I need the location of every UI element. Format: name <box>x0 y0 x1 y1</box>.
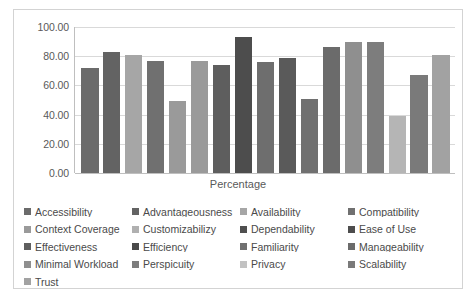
bar-slot <box>430 9 452 173</box>
bar-slot <box>364 9 386 173</box>
bar <box>125 55 142 173</box>
legend-item[interactable]: Manageability <box>348 242 456 253</box>
legend-swatch-icon <box>348 243 355 250</box>
legend-item[interactable]: Ease of Use <box>348 224 456 235</box>
bar <box>103 52 120 173</box>
legend-item[interactable]: Minimal Workload <box>24 259 132 270</box>
bar-slot <box>386 9 408 173</box>
bar <box>213 65 230 173</box>
y-axis: 0.0020.0040.0060.0080.00100.00 <box>13 9 75 185</box>
y-axis-tick-label: 40.00 <box>43 109 69 121</box>
legend-item-label: Availability <box>251 207 300 218</box>
bar-slot <box>408 9 430 173</box>
legend-swatch-icon <box>132 243 139 250</box>
legend-item-label: Effectiveness <box>35 242 97 253</box>
legend-item-label: Efficiency <box>143 242 188 253</box>
legend-swatch-icon <box>24 226 31 233</box>
y-axis-tick-label: 60.00 <box>43 79 69 91</box>
legend-item-label: Compatibility <box>359 207 419 218</box>
legend-swatch-icon <box>240 261 247 268</box>
legend-swatch-icon <box>348 261 355 268</box>
bar-slot <box>211 9 233 173</box>
bar-slot <box>276 9 298 173</box>
bar <box>323 47 340 173</box>
legend-item-label: Customizabilizy <box>143 224 216 235</box>
legend-item[interactable]: Compatibility <box>348 207 456 218</box>
legend-swatch-icon <box>240 243 247 250</box>
bar <box>147 61 164 173</box>
legend-item[interactable]: Accessibility <box>24 207 132 218</box>
bar-slot <box>320 9 342 173</box>
bar <box>301 99 318 173</box>
bar-slot <box>342 9 364 173</box>
bar-slot <box>167 9 189 173</box>
legend-swatch-icon <box>132 208 139 215</box>
bar <box>345 42 362 173</box>
legend-item[interactable]: Privacy <box>240 259 348 270</box>
legend-item-label: Perspicuity <box>143 259 194 270</box>
legend-swatch-icon <box>24 243 31 250</box>
legend-swatch-icon <box>24 278 31 285</box>
x-axis-title: Percentage <box>13 178 463 190</box>
bar <box>367 42 384 173</box>
bar <box>191 61 208 173</box>
legend-item[interactable]: Advantageousness <box>132 207 240 218</box>
legend-item[interactable]: Trust <box>24 277 132 288</box>
legend-item-label: Dependability <box>251 224 315 235</box>
bar-series <box>75 9 455 185</box>
bar <box>432 55 449 173</box>
legend-item-label: Ease of Use <box>359 224 416 235</box>
bar-slot <box>101 9 123 173</box>
chart-legend: AccessibilityAdvantageousnessAvailabilit… <box>24 203 456 291</box>
legend-item-label: Context Coverage <box>35 224 120 235</box>
legend-item[interactable]: Availability <box>240 207 348 218</box>
y-axis-tick-label: 20.00 <box>43 138 69 150</box>
plot-area <box>75 9 455 185</box>
bar <box>169 101 186 173</box>
legend-item[interactable]: Context Coverage <box>24 224 132 235</box>
legend-item-label: Accessibility <box>35 207 92 218</box>
legend-swatch-icon <box>24 208 31 215</box>
bar <box>389 116 406 173</box>
bar <box>257 62 274 173</box>
legend-item[interactable]: Efficiency <box>132 242 240 253</box>
bar <box>235 37 252 173</box>
bar-slot <box>189 9 211 173</box>
legend-item-label: Trust <box>35 277 59 288</box>
legend-swatch-icon <box>24 261 31 268</box>
legend-swatch-icon <box>240 226 247 233</box>
bar-slot <box>298 9 320 173</box>
legend-item[interactable]: Customizabilizy <box>132 224 240 235</box>
legend-item[interactable]: Familiarity <box>240 242 348 253</box>
plot-region: 0.0020.0040.0060.0080.00100.00 <box>13 9 463 185</box>
bar-slot <box>145 9 167 173</box>
legend-item-label: Privacy <box>251 259 285 270</box>
legend-item-label: Scalability <box>359 259 406 270</box>
legend-swatch-icon <box>132 226 139 233</box>
bar-slot <box>255 9 277 173</box>
legend-item[interactable]: Dependability <box>240 224 348 235</box>
legend-item[interactable]: Effectiveness <box>24 242 132 253</box>
legend-item-label: Manageability <box>359 242 424 253</box>
y-axis-tick-label: 80.00 <box>43 50 69 62</box>
bar-slot <box>79 9 101 173</box>
bar <box>410 75 427 173</box>
legend-item-label: Familiarity <box>251 242 299 253</box>
legend-item[interactable]: Scalability <box>348 259 456 270</box>
bar-slot <box>123 9 145 173</box>
bar <box>81 68 98 173</box>
bar <box>279 58 296 173</box>
bar-chart-figure: 0.0020.0040.0060.0080.00100.00 Percentag… <box>0 0 475 297</box>
legend-item[interactable]: Perspicuity <box>132 259 240 270</box>
legend-item-label: Advantageousness <box>143 207 232 218</box>
legend-swatch-icon <box>348 208 355 215</box>
legend-swatch-icon <box>348 226 355 233</box>
legend-swatch-icon <box>240 208 247 215</box>
bar-slot <box>233 9 255 173</box>
legend-item-label: Minimal Workload <box>35 259 118 270</box>
legend-swatch-icon <box>132 261 139 268</box>
y-axis-tick-label: 100.00 <box>37 21 69 33</box>
